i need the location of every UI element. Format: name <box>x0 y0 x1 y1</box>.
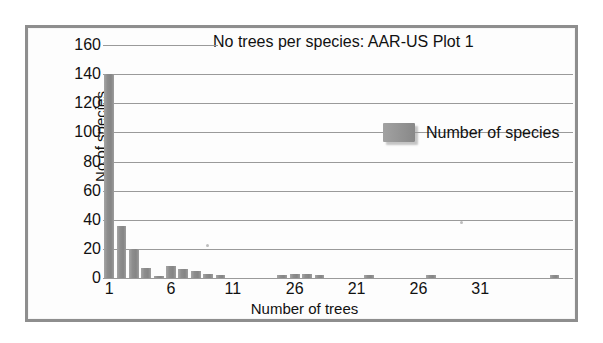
x-tick-label-5: 26 <box>396 281 440 297</box>
bar <box>141 268 151 278</box>
bar <box>178 269 188 278</box>
scan-speckle <box>206 244 209 247</box>
bar <box>302 274 312 278</box>
y-tick-label-140: 140 <box>59 66 101 82</box>
x-tick-label-2: 11 <box>211 281 255 297</box>
bar <box>315 275 325 278</box>
y-tick-label-120: 120 <box>59 95 101 111</box>
x-tick-label-0: 1 <box>87 281 131 297</box>
chart-legend: Number of species <box>383 123 559 142</box>
y-tick-label-80: 80 <box>59 154 101 170</box>
bar <box>290 274 300 278</box>
y-tick-label-160: 160 <box>59 37 101 53</box>
bar <box>277 275 287 278</box>
x-tick-label-3: 26 <box>273 281 317 297</box>
bar <box>203 274 213 278</box>
bar <box>550 275 560 278</box>
bar <box>154 276 164 278</box>
bar <box>166 266 176 278</box>
bar-series <box>103 45 573 278</box>
legend-label-number-of-species: Number of species <box>426 124 559 142</box>
x-axis-title: Number of trees <box>28 300 581 317</box>
bar <box>129 249 139 278</box>
chart-frame: No trees per species: AAR-US Plot 1 No o… <box>25 25 578 322</box>
bar <box>104 74 114 278</box>
y-axis-tick-labels: 160140120100806040200 <box>55 45 101 278</box>
bar <box>426 275 436 278</box>
y-tick-label-60: 60 <box>59 183 101 199</box>
bar <box>191 271 201 278</box>
bar <box>364 275 374 278</box>
screenshot-root: No trees per species: AAR-US Plot 1 No o… <box>0 0 603 343</box>
plot-area <box>103 45 573 278</box>
x-tick-label-1: 6 <box>149 281 193 297</box>
legend-swatch-number-of-species <box>383 123 415 142</box>
gridline-0 <box>103 278 573 279</box>
scan-speckle <box>460 221 463 224</box>
y-tick-label-100: 100 <box>59 124 101 140</box>
bar <box>117 226 127 278</box>
x-tick-label-6: 31 <box>458 281 502 297</box>
x-tick-label-4: 21 <box>335 281 379 297</box>
y-tick-label-40: 40 <box>59 212 101 228</box>
y-tick-label-20: 20 <box>59 241 101 257</box>
bar <box>216 275 226 278</box>
